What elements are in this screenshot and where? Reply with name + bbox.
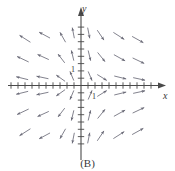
field-arrow bbox=[38, 111, 49, 116]
field-arrow bbox=[37, 92, 49, 95]
field-arrow bbox=[72, 133, 74, 144]
field-arrow bbox=[38, 54, 49, 59]
field-arrow bbox=[72, 28, 74, 39]
x-unit-tick-label: 1 bbox=[92, 92, 96, 101]
axes bbox=[8, 7, 166, 160]
field-arrow bbox=[114, 110, 125, 116]
field-arrow bbox=[16, 77, 28, 80]
field-arrow bbox=[98, 109, 105, 118]
field-arrow bbox=[39, 133, 50, 139]
y-axis-label: y bbox=[81, 3, 87, 14]
field-arrow bbox=[39, 32, 50, 38]
figure-slope-field: x y 1 1 (B) bbox=[0, 0, 175, 171]
field-arrow bbox=[113, 132, 124, 139]
field-arrow bbox=[133, 78, 145, 81]
field-arrow bbox=[60, 129, 66, 139]
field-arrow bbox=[132, 128, 143, 134]
field-arrow bbox=[60, 32, 66, 42]
field-arrow bbox=[16, 91, 28, 94]
field-arrow bbox=[88, 110, 90, 120]
field-arrow bbox=[97, 131, 104, 141]
field-arrow bbox=[97, 30, 104, 40]
field-arrow bbox=[88, 50, 90, 60]
field-arrow bbox=[114, 92, 126, 95]
field-arrow bbox=[17, 109, 29, 114]
field-arrow bbox=[56, 90, 65, 96]
figure-caption: (B) bbox=[0, 157, 175, 169]
x-axis-label: x bbox=[162, 90, 168, 101]
field-arrow bbox=[133, 108, 145, 113]
field-arrow bbox=[56, 75, 65, 81]
field-arrow bbox=[70, 90, 74, 99]
field-arrow bbox=[88, 28, 90, 39]
field-arrow bbox=[133, 91, 145, 94]
field-arrow bbox=[97, 91, 106, 97]
y-unit-tick-label: 1 bbox=[71, 65, 75, 74]
field-arrow bbox=[132, 36, 143, 42]
field-arrow bbox=[71, 110, 73, 120]
field-arrow bbox=[97, 75, 106, 81]
field-arrow bbox=[20, 35, 31, 42]
field-arrow bbox=[113, 32, 124, 39]
field-arrow bbox=[58, 108, 65, 117]
field-arrow bbox=[88, 133, 90, 144]
field-arrow bbox=[17, 56, 29, 61]
field-arrow bbox=[71, 50, 73, 60]
field-arrow bbox=[133, 58, 145, 63]
x-axis-arrowhead bbox=[158, 83, 166, 89]
field-arrow bbox=[88, 71, 92, 80]
field-arrow bbox=[114, 76, 126, 79]
slope-field-plot: x y 1 1 bbox=[0, 0, 175, 171]
field-arrow bbox=[20, 129, 31, 136]
field-arrow bbox=[58, 54, 65, 63]
field-arrow bbox=[114, 55, 125, 61]
field-arrow bbox=[37, 76, 49, 79]
field-arrow bbox=[98, 52, 105, 61]
